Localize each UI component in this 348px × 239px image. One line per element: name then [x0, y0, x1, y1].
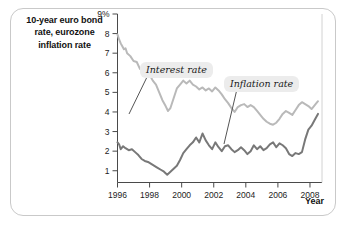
y-tick-group: 9%87654321 [97, 9, 117, 176]
figure-container: 10-year euro bond rate, eurozone inflati… [0, 0, 348, 239]
y-tick-label: 1 [105, 166, 110, 176]
y-tick-label: 9% [97, 9, 110, 19]
y-tick-label: 3 [105, 127, 110, 137]
y-tick-label: 6 [105, 68, 110, 78]
y-tick-label: 4 [105, 107, 110, 117]
axis-group [118, 14, 323, 183]
inflation-leader-line [224, 89, 237, 144]
interest-rate-label: Interest rate [140, 62, 213, 78]
y-tick-label: 5 [105, 87, 110, 97]
inflation-rate-label: Inflation rate [224, 76, 299, 92]
x-tick-label: 2006 [268, 190, 287, 200]
x-axis-title: Year [305, 196, 324, 206]
x-tick-label: 2004 [236, 190, 255, 200]
series-line-inflation-rate [118, 114, 318, 175]
series-group [118, 35, 318, 175]
x-tick-label: 1998 [140, 190, 159, 200]
chart-plot: 9%87654321 1996199820002002200420062008 [0, 0, 348, 239]
x-tick-label: 2002 [204, 190, 223, 200]
y-tick-label: 8 [105, 29, 110, 39]
x-tick-label: 2000 [172, 190, 191, 200]
interest-leader-line [129, 75, 148, 114]
leader-line-group [129, 75, 237, 144]
x-tick-group: 1996199820002002200420062008 [108, 183, 320, 200]
x-tick-label: 1996 [108, 190, 127, 200]
y-tick-label: 7 [105, 48, 110, 58]
y-tick-label: 2 [105, 146, 110, 156]
